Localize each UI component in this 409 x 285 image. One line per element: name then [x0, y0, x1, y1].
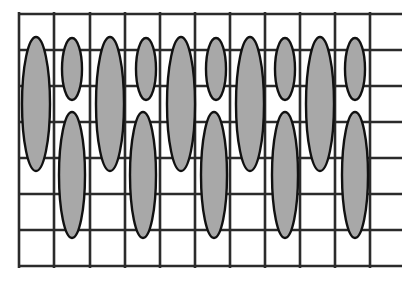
ellipse-u7-tall	[236, 37, 264, 171]
ellipse-l3-tall	[201, 112, 227, 238]
ellipse-l4-tall	[272, 112, 298, 238]
ellipse-u1-tall	[22, 37, 50, 171]
ellipse-u2-short	[62, 38, 82, 100]
ellipse-l2-tall	[130, 112, 156, 238]
grid-ellipse-diagram	[0, 0, 409, 285]
ellipse-u5-tall	[167, 37, 195, 171]
ellipse-l1-tall	[59, 112, 85, 238]
ellipse-u4-short	[136, 38, 156, 100]
ellipse-u6-short	[206, 38, 226, 100]
ellipse-u8-short	[275, 38, 295, 100]
figure-canvas	[0, 0, 409, 285]
ellipse-u3-tall	[96, 37, 124, 171]
ellipse-u10-short	[345, 38, 365, 100]
ellipse-u9-tall	[306, 37, 334, 171]
ellipse-l5-tall	[342, 112, 368, 238]
